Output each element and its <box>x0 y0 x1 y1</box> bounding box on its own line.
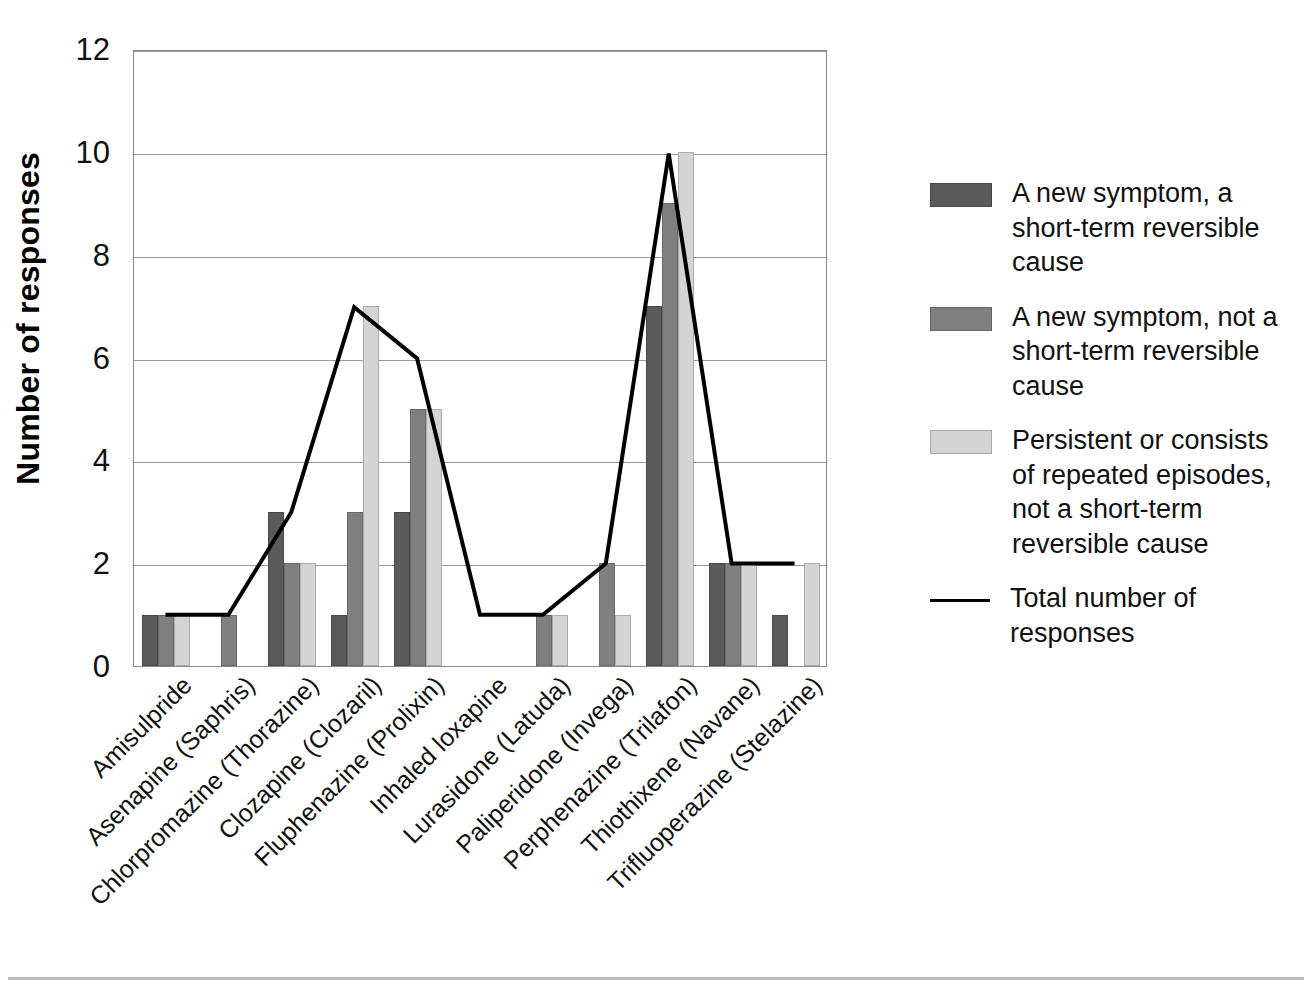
total-line-path <box>165 153 794 614</box>
legend-label: Persistent or consists of repeated episo… <box>1012 423 1298 561</box>
y-tick-label: 6 <box>93 341 110 377</box>
footer-divider <box>8 977 1304 980</box>
legend-line-marker <box>930 588 990 610</box>
chart-figure: 024681012 Number of responses Amisulprid… <box>0 0 1312 993</box>
legend-item[interactable]: Persistent or consists of repeated episo… <box>930 423 1298 561</box>
legend-swatch <box>930 183 992 207</box>
legend-label: Total number of responses <box>1010 581 1298 650</box>
legend-label: A new symptom, not a short-term reversib… <box>1012 300 1298 404</box>
legend-item[interactable]: Total number of responses <box>930 581 1298 650</box>
y-tick-label: 8 <box>93 238 110 274</box>
plot-area <box>133 50 827 667</box>
legend-item[interactable]: A new symptom, not a short-term reversib… <box>930 300 1298 404</box>
legend-item[interactable]: A new symptom, a short-term reversible c… <box>930 176 1298 280</box>
y-tick-label: 0 <box>93 649 110 685</box>
y-axis-title: Number of responses <box>10 39 47 599</box>
legend-swatch <box>930 430 992 454</box>
legend-label: A new symptom, a short-term reversible c… <box>1012 176 1298 280</box>
y-tick-label: 12 <box>76 32 110 68</box>
chart-legend: A new symptom, a short-term reversible c… <box>930 176 1298 671</box>
y-tick-label: 2 <box>93 546 110 582</box>
x-axis-tick-labels: AmisulprideAsenapine (Saphris)Chlorproma… <box>133 672 827 972</box>
y-tick-label: 4 <box>93 443 110 479</box>
legend-swatch <box>930 307 992 331</box>
total-line-series <box>134 51 826 666</box>
y-tick-label: 10 <box>76 135 110 171</box>
